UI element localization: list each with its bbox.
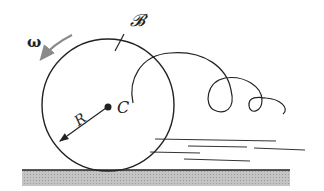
- center-label: C: [117, 98, 129, 117]
- omega-arrow: [42, 35, 72, 58]
- body-leader-line: [115, 34, 124, 51]
- omega-label: ω: [27, 33, 41, 51]
- center-point: [105, 104, 112, 111]
- body-label: 𝓑: [130, 10, 148, 30]
- trajectory-curve: [132, 53, 285, 114]
- motion-lines: [150, 139, 305, 161]
- ground-hatch: [22, 170, 290, 186]
- rolling-disk-diagram: 𝓑 ω C R: [0, 0, 324, 191]
- radius-label: R: [70, 109, 89, 129]
